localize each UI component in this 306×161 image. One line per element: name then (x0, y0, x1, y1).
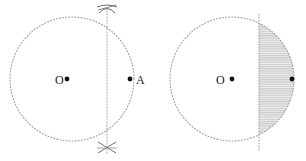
point-a-label: A (136, 73, 145, 87)
right-center-point-dot (230, 77, 235, 82)
right-center-label: O (216, 73, 225, 87)
right-edge-point-dot (290, 77, 295, 82)
left-center-point-dot (65, 77, 70, 82)
diagram-canvas: O A O (0, 0, 306, 161)
point-a-dot (128, 77, 133, 82)
right-diagram-group: O (170, 13, 300, 150)
geometry-figure-svg: O A O (0, 0, 306, 161)
left-center-label: O (55, 73, 64, 87)
left-circle-outline (10, 17, 134, 141)
left-diagram-group: O A (10, 5, 145, 155)
